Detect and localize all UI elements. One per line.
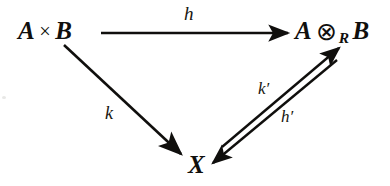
node-tensor-right-term: B bbox=[353, 17, 370, 44]
times-operator-icon: × bbox=[39, 20, 51, 42]
edge-label-k: k bbox=[105, 104, 113, 122]
node-tensor-left-term: A bbox=[295, 17, 312, 44]
edge-kprime-arrow bbox=[222, 48, 339, 147]
tensor-product-icon: ⊗ bbox=[316, 18, 338, 45]
edge-label-k-prime: k′ bbox=[258, 80, 269, 97]
edge-hprime-arrow bbox=[213, 60, 337, 163]
node-axb-left-term: A bbox=[18, 17, 35, 44]
commutative-diagram: A×B A⊗RB X h k k′ h′ bbox=[0, 0, 390, 186]
node-a-tensor-b: A⊗RB bbox=[295, 18, 370, 43]
edge-label-h-prime: h′ bbox=[281, 108, 293, 125]
node-axb-right-term: B bbox=[55, 17, 72, 44]
node-x-term: X bbox=[188, 151, 205, 178]
node-x: X bbox=[188, 152, 205, 177]
edge-k-arrow bbox=[64, 45, 181, 154]
tensor-subscript-ring: R bbox=[339, 29, 350, 46]
edge-label-h: h bbox=[184, 4, 194, 23]
node-a-times-b: A×B bbox=[18, 18, 72, 43]
